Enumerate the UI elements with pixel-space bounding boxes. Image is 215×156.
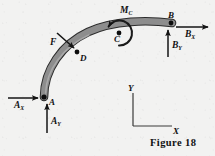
point-marker-a (41, 94, 46, 99)
force-label-bx-subscript: X (191, 34, 195, 40)
force-label-ax: AX (14, 101, 24, 111)
force-label-ay-subscript: Y (57, 121, 61, 127)
figure-18-free-body-diagram: A B C D AX AY BX BY F MC Y X Figure 18 (0, 0, 215, 156)
point-marker-b (169, 21, 174, 26)
moment-label-subscript: C (128, 10, 132, 16)
force-label-by-subscript: Y (178, 45, 182, 51)
axis-label-x: X (173, 127, 179, 136)
force-label-f: F (50, 38, 56, 48)
point-label-d: D (80, 54, 87, 63)
force-label-ay: AY (51, 117, 61, 127)
point-label-c: C (114, 35, 120, 44)
force-label-f-symbol: F (50, 37, 56, 47)
figure-caption: Figure 18 (150, 137, 196, 148)
point-label-a: A (49, 98, 55, 107)
diagram-canvas (0, 0, 215, 156)
coordinate-axes (133, 93, 172, 126)
axis-label-y: Y (128, 84, 134, 93)
point-label-b: B (168, 11, 174, 20)
force-label-ax-subscript: X (20, 105, 24, 111)
beam-outline (44, 21, 172, 97)
force-label-bx: BX (185, 30, 195, 40)
beam-body (44, 21, 172, 97)
curved-beam (44, 21, 172, 97)
point-marker-d (75, 50, 80, 55)
moment-label-mc: MC (120, 6, 132, 16)
force-label-by: BY (172, 41, 182, 51)
